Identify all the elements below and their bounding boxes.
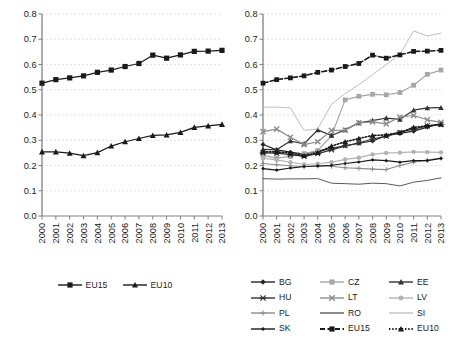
legend-item-label: EU15 bbox=[348, 324, 370, 333]
legend-left-row: EU15EU10 bbox=[0, 279, 229, 291]
svg-text:0.5: 0.5 bbox=[245, 85, 258, 95]
svg-text:2006: 2006 bbox=[341, 223, 351, 243]
svg-text:0.1: 0.1 bbox=[24, 186, 37, 196]
line-chart-right: 0.00.10.20.30.40.50.60.70.82000200120022… bbox=[229, 0, 457, 279]
svg-text:2013: 2013 bbox=[436, 223, 446, 243]
svg-text:2001: 2001 bbox=[272, 223, 282, 243]
svg-text:0.8: 0.8 bbox=[24, 9, 37, 19]
svg-text:2011: 2011 bbox=[409, 223, 419, 243]
svg-text:2003: 2003 bbox=[79, 223, 89, 243]
legend-item-cz[interactable]: CZ bbox=[319, 276, 386, 288]
line-chart-left: 0.00.10.20.30.40.50.60.70.82000200120022… bbox=[0, 0, 229, 279]
svg-text:2005: 2005 bbox=[107, 223, 117, 243]
svg-text:0.8: 0.8 bbox=[245, 9, 258, 19]
legend-key-bg-diamond-icon bbox=[250, 276, 276, 288]
legend-item-label: SK bbox=[279, 324, 291, 333]
legend-key-ee-triangle-icon bbox=[388, 276, 414, 288]
svg-text:0.3: 0.3 bbox=[24, 135, 37, 145]
svg-text:2008: 2008 bbox=[148, 223, 158, 243]
legend-left: EU15EU10 bbox=[0, 279, 229, 291]
legend-item-pl[interactable]: PL bbox=[250, 307, 317, 319]
svg-text:0.6: 0.6 bbox=[245, 60, 258, 70]
legend-item-label: LT bbox=[348, 293, 358, 302]
svg-text:0.0: 0.0 bbox=[245, 211, 258, 221]
svg-text:2012: 2012 bbox=[423, 223, 433, 243]
legend-item-si[interactable]: SI bbox=[388, 307, 455, 319]
legend-item-label: EU10 bbox=[417, 324, 439, 333]
svg-text:2001: 2001 bbox=[51, 223, 61, 243]
svg-text:2000: 2000 bbox=[258, 223, 268, 243]
svg-text:0.4: 0.4 bbox=[245, 110, 258, 120]
legend-item-label: LV bbox=[417, 293, 427, 302]
svg-text:0.7: 0.7 bbox=[24, 34, 37, 44]
svg-text:2003: 2003 bbox=[299, 223, 309, 243]
svg-text:2002: 2002 bbox=[65, 223, 75, 243]
legend-item-bg[interactable]: BG bbox=[250, 276, 317, 288]
legend-item-lt[interactable]: LT bbox=[319, 292, 386, 304]
svg-text:2005: 2005 bbox=[327, 223, 337, 243]
svg-text:0.4: 0.4 bbox=[24, 110, 37, 120]
legend-item-label: PL bbox=[279, 309, 290, 318]
legend-item-label: BG bbox=[279, 278, 292, 287]
svg-text:2012: 2012 bbox=[204, 223, 214, 243]
svg-text:2009: 2009 bbox=[162, 223, 172, 243]
legend-key-si-none-icon bbox=[388, 307, 414, 319]
svg-text:0.2: 0.2 bbox=[24, 161, 37, 171]
legend-item-label: EU10 bbox=[151, 281, 173, 290]
legend-right-grid: BGCZEEHULTLVPLROSISKEU15EU10 bbox=[250, 276, 455, 335]
legend-key-lt-x-icon bbox=[319, 292, 345, 304]
svg-text:2009: 2009 bbox=[382, 223, 392, 243]
legend-item-label: HU bbox=[279, 293, 292, 302]
legend-key-eu15-square-icon bbox=[57, 279, 83, 291]
legend-key-cz-square-icon bbox=[319, 276, 345, 288]
svg-text:2010: 2010 bbox=[395, 223, 405, 243]
legend-item-label: RO bbox=[348, 309, 361, 318]
svg-text:0.1: 0.1 bbox=[245, 186, 258, 196]
legend-key-lv-circle-icon bbox=[388, 292, 414, 304]
legend-key-eu10-triangle-icon bbox=[388, 323, 414, 335]
legend-item-label: EE bbox=[417, 278, 429, 287]
svg-text:0.3: 0.3 bbox=[245, 135, 258, 145]
svg-text:2013: 2013 bbox=[217, 223, 227, 243]
legend-key-eu15-square-icon bbox=[319, 323, 345, 335]
svg-text:0.7: 0.7 bbox=[245, 34, 258, 44]
legend-item-sk[interactable]: SK bbox=[250, 323, 317, 335]
svg-text:2008: 2008 bbox=[368, 223, 378, 243]
legend-item-eu10[interactable]: EU10 bbox=[388, 323, 455, 335]
legend-key-pl-plus-icon bbox=[250, 307, 276, 319]
legend-item-ee[interactable]: EE bbox=[388, 276, 455, 288]
svg-text:2011: 2011 bbox=[190, 223, 200, 243]
figure-root: 0.00.10.20.30.40.50.60.70.82000200120022… bbox=[0, 0, 457, 339]
svg-text:0.5: 0.5 bbox=[24, 85, 37, 95]
svg-text:2004: 2004 bbox=[93, 223, 103, 243]
svg-text:2007: 2007 bbox=[354, 223, 364, 243]
legend-item-hu[interactable]: HU bbox=[250, 292, 317, 304]
legend-item-ro[interactable]: RO bbox=[319, 307, 386, 319]
legend-item-label: SI bbox=[417, 309, 425, 318]
legend-item-lv[interactable]: LV bbox=[388, 292, 455, 304]
legend-key-eu10-triangle-icon bbox=[122, 279, 148, 291]
legend-key-ro-none-icon bbox=[319, 307, 345, 319]
svg-text:2006: 2006 bbox=[120, 223, 130, 243]
svg-text:2007: 2007 bbox=[134, 223, 144, 243]
svg-text:0.2: 0.2 bbox=[245, 161, 258, 171]
svg-text:0.0: 0.0 bbox=[24, 211, 37, 221]
svg-text:2002: 2002 bbox=[286, 223, 296, 243]
legend-item-label: EU15 bbox=[86, 281, 108, 290]
legend-item-label: CZ bbox=[348, 278, 360, 287]
svg-text:2004: 2004 bbox=[313, 223, 323, 243]
svg-text:2000: 2000 bbox=[37, 223, 47, 243]
svg-text:0.6: 0.6 bbox=[24, 60, 37, 70]
legend-item-eu15[interactable]: EU15 bbox=[57, 279, 108, 291]
legend-key-hu-x-bar-icon bbox=[250, 292, 276, 304]
svg-text:2010: 2010 bbox=[176, 223, 186, 243]
legend-key-sk-diamond-small-icon bbox=[250, 323, 276, 335]
legend-right: BGCZEEHULTLVPLROSISKEU15EU10 bbox=[250, 276, 455, 335]
legend-item-eu10[interactable]: EU10 bbox=[122, 279, 173, 291]
legend-item-eu15[interactable]: EU15 bbox=[319, 323, 386, 335]
